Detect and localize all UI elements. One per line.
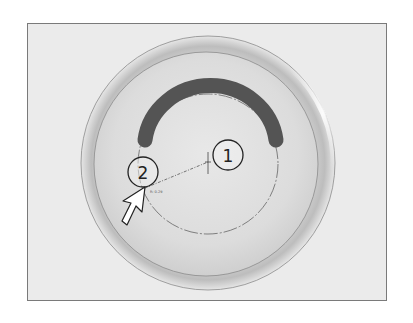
cursor-readout: R: 0.29 [150, 190, 162, 194]
callout-2: 2 [128, 157, 158, 187]
diagram-stage: R: 0.29 1 2 [0, 0, 413, 323]
callout-2-label: 2 [138, 163, 149, 183]
callout-1-label: 1 [223, 146, 234, 166]
callout-1: 1 [213, 140, 243, 170]
knob-drawing: R: 0.29 1 2 [0, 0, 413, 323]
